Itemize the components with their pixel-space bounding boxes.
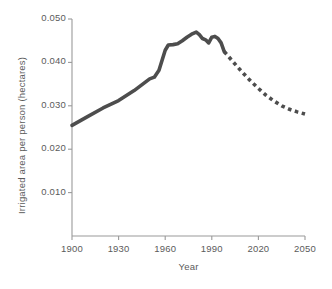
- projection-line: [224, 52, 305, 115]
- x-tick-label: 1930: [95, 243, 143, 254]
- x-tick-label: 1990: [188, 243, 236, 254]
- x-axis-title: Year: [149, 261, 229, 272]
- x-tick-label: 2020: [234, 243, 282, 254]
- x-tick-label: 2050: [281, 243, 329, 254]
- axis-lines: [72, 19, 305, 236]
- irrigated-area-line-chart: 0.0100.0200.0300.0400.050190019301960199…: [0, 0, 332, 289]
- historical-line: [72, 32, 224, 125]
- y-tick-label: 0.010: [24, 186, 66, 197]
- y-axis-ticks: [68, 19, 72, 193]
- x-axis-ticks: [72, 236, 305, 240]
- x-tick-label: 1960: [141, 243, 189, 254]
- x-tick-label: 1900: [48, 243, 96, 254]
- y-tick-label: 0.030: [24, 99, 66, 110]
- y-tick-label: 0.020: [24, 142, 66, 153]
- y-tick-label: 0.040: [24, 55, 66, 66]
- y-tick-label: 0.050: [24, 12, 66, 23]
- data-series-layer: [72, 32, 305, 125]
- y-axis-title: Irrigated area per person (hectares): [16, 57, 27, 214]
